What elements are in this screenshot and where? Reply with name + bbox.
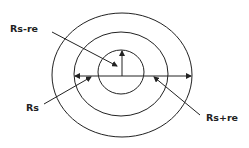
- label-rs: Rs: [26, 102, 39, 113]
- middle-circle: [74, 32, 168, 116]
- rs-re-pointer-arrow: [52, 32, 117, 66]
- inner-circle: [98, 50, 144, 94]
- label-rs-minus-re: Rs-re: [10, 23, 38, 34]
- concentric-circles-diagram: Rs-re Rs Rs+re: [0, 0, 249, 148]
- label-rs-plus-re: Rs+re: [206, 112, 238, 123]
